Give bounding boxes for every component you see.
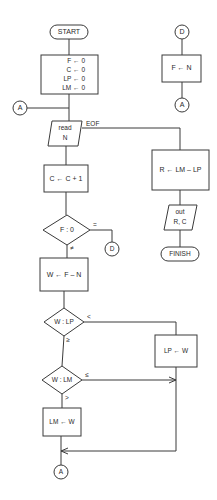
decision-lp-ge-label: ≥ xyxy=(64,336,72,344)
connector-a-top-label: A xyxy=(13,104,27,112)
connector-a-bottom-label: A xyxy=(54,468,68,476)
init-line-1: F ← 0 xyxy=(41,57,85,65)
decision-f-label: F : 0 xyxy=(47,226,87,234)
decision-f-neq-label: ≠ xyxy=(68,244,76,252)
assign-lm-label: LM ← W xyxy=(43,418,81,426)
start-label: START xyxy=(50,28,88,36)
decision-lm-label: W : LM xyxy=(42,376,82,384)
decision-lm-le-label: ≤ xyxy=(83,371,91,379)
decision-lp-lt-label: < xyxy=(85,313,93,321)
increment-label: C ← C + 1 xyxy=(44,175,88,183)
decision-lp-label: W : LP xyxy=(44,318,84,326)
compute-w-label: W ← F – N xyxy=(40,271,88,279)
connector-a-right-label: A xyxy=(175,101,189,109)
decision-lm-gt-label: > xyxy=(63,394,71,402)
read-line-2: N xyxy=(50,134,80,142)
output-line-1: out xyxy=(166,208,194,216)
finish-label: FINISH xyxy=(161,250,199,258)
decision-f-eq-label: = xyxy=(91,221,99,229)
assign-f-label: F ← N xyxy=(162,64,201,72)
compute-r-label: R ← LM – LP xyxy=(152,166,209,174)
read-line-1: read xyxy=(50,124,80,132)
init-line-3: LP ← 0 xyxy=(41,75,85,83)
connector-d-right-label: D xyxy=(175,28,189,36)
output-line-2: R, C xyxy=(166,218,194,226)
init-line-4: LM ← 0 xyxy=(41,84,85,92)
init-line-2: C ← 0 xyxy=(41,66,85,74)
assign-lp-label: LP ← W xyxy=(155,347,197,355)
connector-d-left-label: D xyxy=(105,245,119,253)
eof-label: EOF xyxy=(86,120,102,128)
